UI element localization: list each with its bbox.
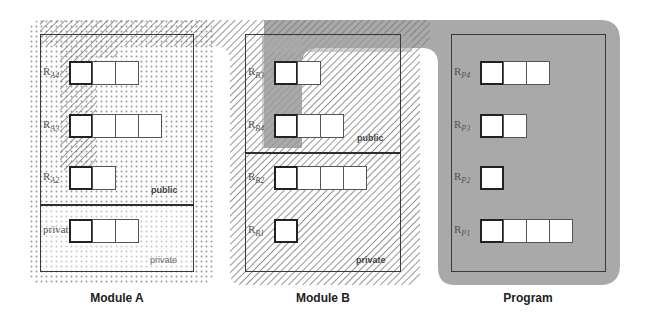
register-label: RA4 — [43, 65, 69, 80]
register-p4: RP4 — [454, 60, 550, 86]
module-b-private-label: private — [356, 255, 386, 265]
register-label: RP1 — [454, 223, 480, 238]
register-b4: RB4 — [248, 113, 344, 139]
register-label: RB4 — [248, 118, 274, 133]
register-a2: RA2 — [43, 165, 116, 191]
register-label: RB3 — [248, 65, 274, 80]
register-a4: RA4 — [43, 60, 139, 86]
module-a-private-label: private — [150, 255, 177, 265]
register-label: RA3 — [43, 118, 69, 133]
register-p1: RP1 — [454, 218, 573, 244]
program-caption: Program — [468, 291, 588, 305]
module-b-public-label: public — [357, 133, 384, 143]
register-b1: RB1 — [248, 218, 298, 244]
register-p2: RP2 — [454, 165, 504, 191]
register-a1: privateA1 — [43, 218, 139, 244]
module-a-caption: Module A — [57, 291, 177, 305]
register-label: RA2 — [43, 170, 69, 185]
register-a3: RA3 — [43, 113, 162, 139]
register-b3: RB3 — [248, 60, 321, 86]
register-p3: RP3 — [454, 113, 527, 139]
register-b2: RB2 — [248, 165, 367, 191]
register-label: RB1 — [248, 223, 274, 238]
module-a-public-label: public — [151, 185, 178, 195]
register-label: RP3 — [454, 118, 480, 133]
register-label: RB2 — [248, 170, 274, 185]
module-b-divider — [245, 152, 401, 154]
register-label: RP2 — [454, 170, 480, 185]
register-label: RP4 — [454, 65, 480, 80]
module-b-caption: Module B — [263, 291, 383, 305]
module-a-divider — [40, 204, 194, 206]
register-label: privateA1 — [43, 223, 69, 238]
